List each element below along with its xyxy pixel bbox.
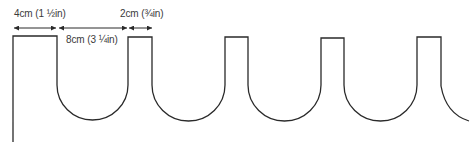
dimension-label-tab: 4cm (1 ½in) <box>14 8 66 19</box>
dimension-label-notch: 8cm (3 ¼in) <box>66 34 118 45</box>
dimension-label-narrow-tab: 2cm (¾in) <box>120 8 164 19</box>
scalloped-edge-outline <box>13 36 469 142</box>
pattern-diagram: 4cm (1 ½in) 8cm (3 ¼in) 2cm (¾in) <box>0 0 476 143</box>
pattern-outline <box>0 0 476 143</box>
